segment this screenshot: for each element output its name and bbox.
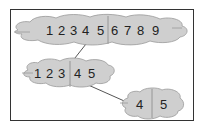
key-5: 5 bbox=[88, 66, 95, 81]
cloud-node-root: 1 2 3 4 5 6 7 8 9 bbox=[14, 14, 187, 45]
key-8: 8 bbox=[137, 23, 144, 38]
key-4: 4 bbox=[136, 97, 143, 112]
key-7: 7 bbox=[124, 23, 131, 38]
key-5: 5 bbox=[97, 23, 104, 38]
cloud-node-child: 1 2 3 4 5 bbox=[22, 58, 114, 87]
key-5: 5 bbox=[160, 97, 167, 112]
key-2: 2 bbox=[46, 66, 53, 81]
key-3: 3 bbox=[70, 23, 77, 38]
key-6: 6 bbox=[111, 23, 118, 38]
key-9: 9 bbox=[152, 23, 159, 38]
key-2: 2 bbox=[58, 23, 65, 38]
key-3: 3 bbox=[58, 66, 65, 81]
key-4: 4 bbox=[82, 23, 89, 38]
key-4: 4 bbox=[74, 66, 81, 81]
key-1: 1 bbox=[34, 66, 41, 81]
key-1: 1 bbox=[46, 23, 53, 38]
diagram-canvas: 1 2 3 4 5 6 7 8 9 1 2 3 4 5 4 5 bbox=[0, 0, 204, 130]
